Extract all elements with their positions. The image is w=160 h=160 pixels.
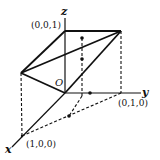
z-axis-label: z (60, 5, 68, 18)
dashed-inner-foot (69, 96, 82, 116)
edge-left-topright (21, 31, 121, 73)
point-label-001: (0,0,1) (31, 20, 61, 30)
dashed-base-diagonal (22, 93, 121, 136)
origin-label: O (55, 77, 63, 88)
point-dot-100 (21, 135, 23, 137)
point-label-010: (0,1,0) (118, 98, 148, 108)
point-dot-base (67, 114, 71, 118)
point-dot-upper (80, 36, 84, 40)
edge-top-left (21, 31, 65, 73)
edge-origin-topright (65, 31, 121, 93)
dashed-left-vertical (21, 73, 22, 136)
point-dot-y-axis (88, 91, 92, 95)
point-dot-middle (80, 57, 84, 61)
3d-coordinate-diagram: z y x O (0,0,1) (0,1,0) (1,0,0) (0, 0, 160, 160)
point-label-100: (1,0,0) (26, 139, 56, 149)
x-axis-label: x (4, 143, 12, 156)
